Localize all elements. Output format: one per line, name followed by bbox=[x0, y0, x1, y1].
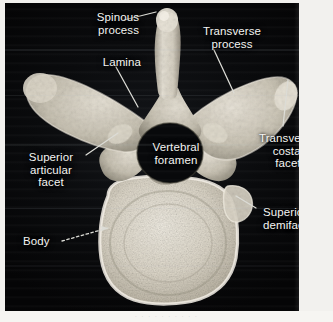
label-transverse-process: Transverse process bbox=[187, 25, 277, 50]
scan-band-artifact bbox=[5, 95, 299, 96]
scan-band-artifact bbox=[5, 265, 299, 267]
transverse-process-left bbox=[23, 73, 149, 152]
label-transverse-costal-facet: Transverse costal facet bbox=[247, 132, 299, 170]
spinous-process-structure bbox=[155, 8, 181, 100]
label-body: Body bbox=[23, 235, 65, 248]
scan-seam-artifact bbox=[294, 3, 299, 311]
ghost-caption-bleedthrough: · · · · · · · · · · bbox=[0, 311, 333, 322]
label-superior-articular-facet: Superior articular facet bbox=[13, 151, 89, 189]
vertebral-body-structure bbox=[100, 175, 238, 305]
scan-band-artifact bbox=[5, 144, 299, 146]
scan-band-artifact bbox=[5, 208, 299, 209]
scan-band-artifact bbox=[5, 49, 299, 51]
figure-page: Spinous process Transverse process Lamin… bbox=[0, 0, 333, 322]
anatomy-photograph: Spinous process Transverse process Lamin… bbox=[5, 3, 299, 311]
label-lamina: Lamina bbox=[81, 56, 141, 69]
superior-demifacet-structure bbox=[223, 186, 252, 222]
label-spinous-process: Spinous process bbox=[67, 11, 139, 36]
